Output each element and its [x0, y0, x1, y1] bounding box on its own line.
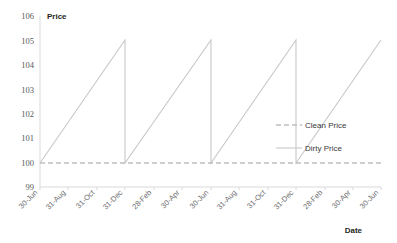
y-tick-label: 104 — [21, 60, 35, 70]
y-tick-label: 103 — [21, 85, 34, 95]
x-tick-label: 30-Apr — [330, 188, 353, 211]
x-axis-title: Date — [345, 226, 363, 235]
x-tick-label: 28-Feb — [301, 188, 324, 211]
x-tick-label: 30-Jun — [188, 188, 211, 211]
chart-canvas: 106 105 104 103 102 101 100 99 Price Dat… — [0, 0, 397, 243]
y-axis-tick-labels: 106 105 104 103 102 101 100 99 — [21, 11, 35, 192]
x-axis-tick-labels: 30-Jun 31-Aug 31-Oct 31-Dec 28-Feb 30-Ap… — [17, 187, 381, 211]
legend-label-dirty-price: Dirty Price — [305, 144, 342, 153]
x-tick-label: 30-Jun — [358, 188, 381, 211]
price-chart: 106 105 104 103 102 101 100 99 Price Dat… — [0, 0, 397, 243]
x-tick-label: 31-Aug — [44, 188, 67, 211]
y-tick-label: 106 — [21, 11, 34, 21]
legend-item-dirty-price: Dirty Price — [276, 144, 342, 153]
x-tick-label: 30-Apr — [159, 188, 182, 211]
y-tick-label: 102 — [21, 109, 34, 119]
y-axis-title: Price — [47, 12, 67, 21]
chart-legend: Clean Price Dirty Price — [276, 121, 347, 153]
x-tick-label: 31-Dec — [272, 188, 296, 212]
x-tick-label: 31-Oct — [245, 187, 268, 210]
y-tick-label: 100 — [21, 158, 34, 168]
x-tick-label: 31-Dec — [101, 188, 125, 212]
x-tick-label: 31-Oct — [74, 187, 97, 210]
y-tick-label: 101 — [21, 133, 34, 143]
legend-item-clean-price: Clean Price — [276, 121, 347, 130]
x-tick-label: 31-Aug — [215, 188, 238, 211]
legend-label-clean-price: Clean Price — [305, 121, 347, 130]
y-tick-label: 105 — [21, 36, 34, 46]
x-tick-label: 28-Feb — [130, 188, 153, 211]
